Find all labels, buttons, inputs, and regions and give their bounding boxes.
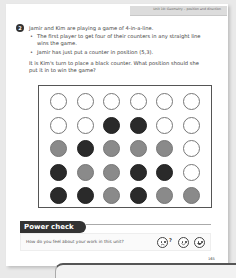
question-bullet-2: Jamir has just put a counter in position… <box>37 49 209 56</box>
power-check-divider <box>86 224 211 225</box>
counter-black-r3-c2 <box>77 140 94 157</box>
counter-white-r1-c1 <box>50 93 67 110</box>
question-number-badge: 2 <box>16 24 24 32</box>
big-smile-face-icon[interactable] <box>194 237 205 248</box>
counter-black-r2-c4 <box>130 117 147 134</box>
counter-white-r2-c2 <box>77 117 94 134</box>
counter-white-r2-c6 <box>183 117 200 134</box>
smile-face-icon[interactable] <box>178 237 189 248</box>
counter-white-r2-c1 <box>50 117 67 134</box>
counter-white-r1-c5 <box>156 93 173 110</box>
counter-white-r2-c5 <box>156 117 173 134</box>
counter-white-r3-c6 <box>183 140 200 157</box>
page-number: 165 <box>208 257 215 261</box>
counter-grey-r3-c3 <box>103 140 120 157</box>
unit-header-bar: Unit 10: Geometry – position and directi… <box>130 6 227 16</box>
question-bullet-1: The first player to get four of their co… <box>37 33 209 46</box>
counter-grey-r3-c4 <box>130 140 147 157</box>
question-prompt: It is Kim's turn to place a black counte… <box>29 60 209 73</box>
counter-grey-r3-c1 <box>50 140 67 157</box>
power-check-box: How do you feel about your work in this … <box>20 233 211 251</box>
counter-black-r4-c5 <box>156 164 173 181</box>
next-page-edge <box>55 263 236 278</box>
counter-grey-r5-c6 <box>183 187 200 204</box>
counter-black-r5-c4 <box>130 187 147 204</box>
power-check-label: Power check <box>20 221 86 233</box>
counter-grey-r4-c3 <box>103 164 120 181</box>
counter-black-r2-c3 <box>103 117 120 134</box>
counter-white-r1-c6 <box>183 93 200 110</box>
counter-white-r1-c2 <box>77 93 94 110</box>
counter-grey-r5-c3 <box>103 187 120 204</box>
question-intro: Jamir and Kim are playing a game of 4-in… <box>29 25 209 32</box>
counter-grey-r3-c5 <box>156 140 173 157</box>
counter-white-r1-c4 <box>130 93 147 110</box>
counter-white-r1-c3 <box>103 93 120 110</box>
counter-white-r4-c6 <box>183 164 200 181</box>
counter-black-r4-c1 <box>50 164 67 181</box>
counter-grey-r4-c2 <box>77 164 94 181</box>
counter-grey-r5-c5 <box>156 187 173 204</box>
counter-black-r5-c2 <box>77 187 94 204</box>
counter-black-r5-c1 <box>50 187 67 204</box>
counter-black-r4-c4 <box>130 164 147 181</box>
unit-title: Unit 10: Geometry – position and directi… <box>153 7 221 11</box>
question-mark: ? <box>169 237 172 243</box>
confused-face-icon[interactable] <box>157 237 168 248</box>
bullet-icon: • <box>30 49 33 55</box>
power-check-question: How do you feel about your work in this … <box>26 239 124 244</box>
four-in-a-line-grid <box>38 85 212 208</box>
bullet-icon: • <box>30 33 33 39</box>
